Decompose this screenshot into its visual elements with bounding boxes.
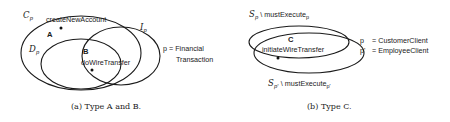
legend-a-line1: p = Financial: [163, 44, 204, 53]
figure-canvas: Cp Dp Ip createNewAccount A B doWireTran…: [0, 0, 450, 122]
legend-b-line2-key: p': [360, 46, 366, 55]
element-create-new-account: createNewAccount: [46, 15, 106, 24]
caption-b: (b) Type C.: [307, 102, 352, 111]
element-dot-b: [91, 69, 94, 72]
set-c-label: Cp: [23, 10, 34, 22]
caption-a: (a) Type A and B.: [71, 102, 141, 111]
legend-b-line1-key: p: [360, 36, 364, 45]
set-sp-prime-label: Sp' \ mustExecutep': [268, 78, 331, 90]
region-a-label: A: [47, 30, 53, 39]
element-do-wire-transfer: doWireTransfer: [81, 58, 131, 67]
set-i-ellipse: [82, 27, 160, 85]
region-c-label: C: [288, 35, 294, 44]
element-dot-c: [277, 57, 280, 60]
figure-a: Cp Dp Ip createNewAccount A B doWireTran…: [21, 10, 213, 111]
figure-b: Sp \ mustExecutep C initiateWireTransfer…: [249, 9, 429, 111]
legend-b-line2-value: = EmployeeClient: [372, 46, 429, 55]
set-sp-label: Sp \ mustExecutep: [249, 9, 309, 21]
set-i-label: Ip: [139, 22, 147, 34]
region-b-label: B: [83, 47, 89, 56]
legend-a-line2: Transaction: [176, 55, 213, 64]
legend-b-line1-value: = CustomerClient: [372, 36, 428, 45]
element-initiate-wire-transfer: initiateWireTransfer: [262, 45, 325, 54]
element-dot-a: [60, 27, 63, 30]
set-d-label: Dp: [28, 44, 40, 56]
